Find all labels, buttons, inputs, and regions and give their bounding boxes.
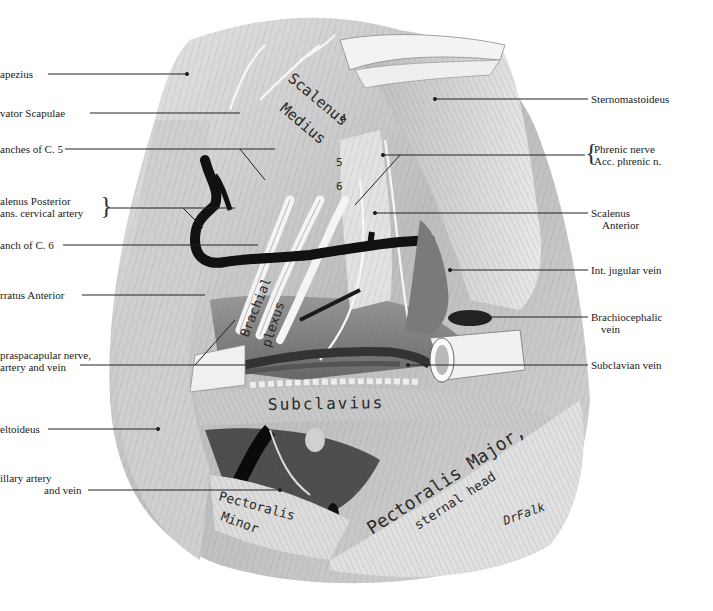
brachiocephalic-vein bbox=[448, 310, 492, 326]
label-text: praspacapular nerve, bbox=[0, 349, 91, 361]
label-int-jugular-vein: Int. jugular vein bbox=[591, 264, 662, 276]
label-text-line2: vein bbox=[591, 323, 662, 335]
label-text: Subclavian vein bbox=[591, 359, 662, 371]
label-suprascapular: praspacapular nerve, artery and vein bbox=[0, 349, 91, 373]
label-text: Int. jugular vein bbox=[591, 264, 662, 276]
label-scalenus-anterior: Scalenus Anterior bbox=[591, 207, 639, 231]
label-scalenus-posterior: alenus Posterior ans. cervical artery bbox=[0, 195, 83, 219]
label-subclavius: Subclavius bbox=[268, 393, 385, 414]
anatomy-illustration: Scalenus Medius Brachial plexus Subclavi… bbox=[0, 0, 713, 611]
label-phrenic: Phrenic nerve Acc. phrenic n. bbox=[594, 143, 661, 167]
label-text: vator Scapulae bbox=[0, 107, 65, 119]
label-branches-c5: anches of C. 5 bbox=[0, 143, 63, 155]
label-text: eltoideus bbox=[0, 423, 40, 435]
label-trapezius: apezius bbox=[0, 68, 33, 80]
label-text-line2: Anterior bbox=[591, 219, 639, 231]
label-axillary: illary artery and vein bbox=[0, 472, 82, 496]
label-text: anch of C. 6 bbox=[0, 239, 54, 251]
label-text: Brachiocephalic bbox=[591, 311, 662, 323]
nerve-root-5a: 5 bbox=[336, 156, 343, 169]
label-text: Sternomastoideus bbox=[591, 93, 669, 105]
nerve-root-6a: 6 bbox=[336, 180, 343, 193]
label-serratus-anterior: rratus Anterior bbox=[0, 289, 64, 301]
label-sternomastoideus: Sternomastoideus bbox=[591, 93, 669, 105]
label-text: alenus Posterior bbox=[0, 195, 83, 207]
label-text: illary artery bbox=[0, 472, 82, 484]
bracket-scalenus-posterior: } bbox=[100, 193, 112, 219]
label-text: anches of C. 5 bbox=[0, 143, 63, 155]
label-text: rratus Anterior bbox=[0, 289, 64, 301]
label-subclavian-vein: Subclavian vein bbox=[591, 359, 662, 371]
nerve-root-4: 4 bbox=[340, 112, 347, 125]
label-levator-scapulae: vator Scapulae bbox=[0, 107, 65, 119]
label-text-line2: and vein bbox=[0, 484, 82, 496]
label-text: Scalenus bbox=[591, 207, 639, 219]
label-brachiocephalic-vein: Brachiocephalic vein bbox=[591, 311, 662, 335]
label-text: apezius bbox=[0, 68, 33, 80]
label-text: Phrenic nerve bbox=[594, 143, 661, 155]
label-text-line2: Acc. phrenic n. bbox=[594, 155, 661, 167]
label-deltoideus: eltoideus bbox=[0, 423, 40, 435]
label-text-line2: ans. cervical artery bbox=[0, 207, 83, 219]
label-text-line2: artery and vein bbox=[0, 361, 91, 373]
label-branch-c6: anch of C. 6 bbox=[0, 239, 54, 251]
